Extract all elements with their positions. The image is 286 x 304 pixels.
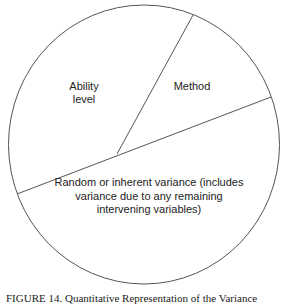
segment-label-line: intervening variables): [40, 203, 258, 217]
segment-label-line: Method: [162, 80, 222, 93]
outer-circle: [9, 5, 280, 284]
segment-label-line: variance due to any remaining: [40, 190, 258, 204]
segment-label-line: level: [52, 93, 116, 106]
segment-label-ability: Ability level: [52, 80, 116, 106]
segment-label-random: Random or inherent variance (includes va…: [40, 176, 258, 217]
segment-label-line: Random or inherent variance (includes: [40, 176, 258, 190]
figure-caption: FIGURE 14. Quantitative Representation o…: [6, 292, 257, 304]
segment-label-method: Method: [162, 80, 222, 93]
segment-label-line: Ability: [52, 80, 116, 93]
